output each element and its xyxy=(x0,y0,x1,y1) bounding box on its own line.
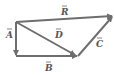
svg-text:B: B xyxy=(44,63,53,73)
svg-text:A: A xyxy=(5,30,13,40)
vector-diagram: A B C D R xyxy=(0,0,114,75)
label-a: A xyxy=(5,29,13,40)
svg-text:D: D xyxy=(54,30,63,40)
label-c: C xyxy=(96,38,104,49)
label-b: B xyxy=(44,62,53,73)
vector-d xyxy=(16,22,75,55)
label-d: D xyxy=(54,29,63,40)
vector-c xyxy=(78,17,112,56)
svg-text:R: R xyxy=(60,7,69,17)
label-r: R xyxy=(60,6,69,17)
svg-text:C: C xyxy=(96,39,104,49)
